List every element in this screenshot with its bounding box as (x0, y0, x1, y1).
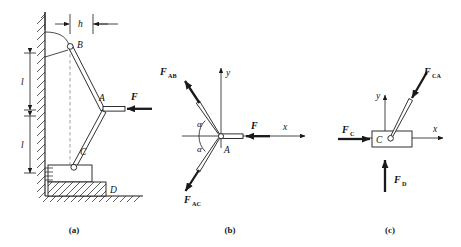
joint-label-c: C (80, 147, 87, 157)
pin-joint-c (71, 164, 77, 170)
force-label-fc-symbol: F (341, 124, 349, 135)
figure-root: h l l (0, 0, 461, 247)
force-label-fab-symbol: F (159, 66, 167, 77)
link-a-stub (103, 107, 125, 112)
force-label-fd-subscript: D (402, 180, 407, 187)
angle-label-alpha-lower: α (197, 144, 202, 154)
axis-label-y-panel-c: y (375, 91, 381, 101)
dimension-label-h: h (78, 19, 83, 29)
canvas-background (0, 0, 461, 247)
axis-label-x-panel-c: x (432, 124, 438, 134)
force-label-f-panel-b: F (250, 120, 258, 131)
caption-b: (b) (225, 225, 236, 235)
force-label-fac-symbol: F (183, 194, 191, 205)
force-label-fab-subscript: AB (168, 72, 177, 79)
block-label-c-panel-c: C (376, 135, 383, 145)
axis-label-x-panel-b: x (282, 122, 288, 132)
force-label-fd-symbol: F (393, 174, 401, 185)
force-label-f-panel-a: F (130, 91, 138, 102)
joint-label-a: A (98, 93, 105, 103)
joint-label-a-panel-b: A (223, 145, 230, 155)
force-label-fac-subscript: AC (192, 200, 201, 207)
mechanics-figure-svg: h l l (0, 0, 461, 247)
caption-a: (a) (69, 225, 80, 235)
force-label-fca-subscript: CA (432, 72, 441, 79)
dimension-label-l-lower: l (21, 140, 24, 150)
axis-label-y-panel-b: y (225, 68, 231, 78)
pin-joint-c-panel-c (388, 136, 394, 142)
dimension-label-l-upper: l (21, 77, 24, 87)
caption-c: (c) (385, 225, 395, 235)
joint-label-b: B (77, 40, 83, 50)
block-c (48, 165, 92, 182)
joint-label-d: D (109, 185, 117, 195)
force-label-fca-symbol: F (423, 66, 431, 77)
force-label-fc-subscript: C (350, 130, 354, 137)
angle-label-alpha-upper: α (197, 119, 202, 129)
pin-joint-b (67, 44, 73, 50)
pin-joint-a-panel-b (218, 134, 223, 139)
